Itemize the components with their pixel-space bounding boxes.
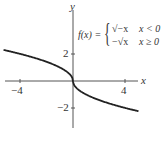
- formula-lhs: f(x) =: [78, 28, 101, 41]
- xtick-label-4: 4: [121, 84, 127, 96]
- x-axis-label: x: [141, 74, 146, 86]
- case2-cond: x ≥ 0: [139, 35, 159, 48]
- case1-cond: x < 0: [139, 22, 160, 35]
- brace: {: [104, 20, 110, 47]
- case2-expr: −√x: [112, 35, 139, 48]
- formula-cases: √−xx < 0 −√xx ≥ 0: [112, 22, 160, 48]
- xtick-label-neg4: −4: [11, 84, 23, 96]
- case1-expr: √−x: [112, 22, 139, 35]
- ytick-label-2: 2: [63, 47, 69, 59]
- y-axis-label: y: [70, 0, 75, 12]
- ytick-label-neg2: −2: [57, 101, 69, 113]
